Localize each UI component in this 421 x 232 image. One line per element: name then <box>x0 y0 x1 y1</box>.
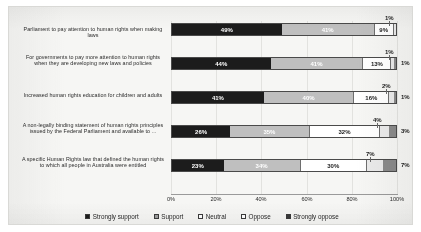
x-tick-label: 80% <box>346 196 357 202</box>
bar-segment-oppose <box>367 160 383 171</box>
value-callout-oppose: 1% <box>385 49 394 55</box>
chart-legend: Strongly support Support Neutral Oppose … <box>21 210 403 222</box>
legend-item-strongly-oppose[interactable]: Strongly oppose <box>286 213 339 220</box>
bar-segment-neutral: 16% <box>353 92 389 103</box>
legend-swatch-icon <box>154 214 159 219</box>
legend-item-oppose[interactable]: Oppose <box>241 213 271 220</box>
legend-label: Strongly oppose <box>293 213 339 220</box>
legend-label: Neutral <box>206 213 226 220</box>
value-callout-oppose: 1% <box>385 15 394 21</box>
stacked-bar: 26% 35% 32% <box>171 125 397 138</box>
bar-segment-strongly-support: 49% <box>172 24 282 35</box>
category-label: A non-legally binding statement of human… <box>21 122 165 135</box>
legend-label: Support <box>161 213 183 220</box>
bar-segment-support: 41% <box>282 24 374 35</box>
value-callout-strongly-oppose: 3% <box>401 128 410 134</box>
x-tick-label: 40% <box>255 196 266 202</box>
x-tick-label: 100% <box>390 196 404 202</box>
value-callout-oppose: 7% <box>366 151 375 157</box>
bar-segment-neutral: 30% <box>300 160 367 171</box>
category-label: Increased human rights education for chi… <box>21 92 165 98</box>
legend-label: Oppose <box>249 213 271 220</box>
legend-label: Strongly support <box>93 213 139 220</box>
chart-container: Parliament to pay attention to human rig… <box>8 6 413 225</box>
bar-segment-strongly-oppose <box>394 58 396 69</box>
legend-item-neutral[interactable]: Neutral <box>198 213 226 220</box>
x-tick-label: 60% <box>301 196 312 202</box>
leader-line <box>389 55 390 60</box>
x-axis-line <box>171 194 398 195</box>
bar-segment-strongly-oppose <box>394 92 396 103</box>
bar-segment-strongly-support: 26% <box>172 126 230 137</box>
bar-segment-support: 35% <box>230 126 308 137</box>
legend-swatch-icon <box>85 214 90 219</box>
leader-line <box>386 89 387 94</box>
legend-swatch-icon <box>241 214 246 219</box>
bar-segment-neutral: 32% <box>309 126 381 137</box>
bar-segment-neutral: 9% <box>374 24 394 35</box>
x-axis: 0% 20% 40% 60% 80% 100% <box>171 196 397 206</box>
value-callout-strongly-oppose: 1% <box>401 94 410 100</box>
x-tick-label: 0% <box>167 196 175 202</box>
category-label: A specific Human Rights law that defined… <box>21 156 165 169</box>
leader-line <box>377 123 378 128</box>
leader-line <box>370 157 371 162</box>
bar-segment-support: 34% <box>224 160 300 171</box>
bar-segment-oppose <box>380 126 389 137</box>
bar-segment-support: 40% <box>264 92 354 103</box>
bar-segment-support: 41% <box>271 58 363 69</box>
value-callout-strongly-oppose: 7% <box>401 162 410 168</box>
legend-swatch-icon <box>286 214 291 219</box>
stacked-bar: 49% 41% 9% <box>171 23 397 36</box>
value-callout-strongly-oppose: 1% <box>401 60 410 66</box>
x-tick-label: 20% <box>210 196 221 202</box>
value-callout-oppose: 2% <box>382 83 391 89</box>
gridline-100 <box>397 21 398 194</box>
bar-segment-oppose <box>394 24 396 35</box>
leader-line <box>389 21 390 26</box>
legend-item-strongly-support[interactable]: Strongly support <box>85 213 138 220</box>
stacked-bar: 23% 34% 30% <box>171 159 397 172</box>
bar-segment-strongly-support: 41% <box>172 92 264 103</box>
value-callout-oppose: 4% <box>373 117 382 123</box>
category-label: Parliament to pay attention to human rig… <box>21 26 165 39</box>
bar-segment-strongly-oppose <box>389 126 396 137</box>
bar-segment-neutral: 13% <box>362 58 391 69</box>
stacked-bar: 41% 40% 16% <box>171 91 397 104</box>
legend-swatch-icon <box>198 214 203 219</box>
stacked-bar: 44% 41% 13% <box>171 57 397 70</box>
category-label: For governments to pay more attention to… <box>21 54 165 67</box>
bar-segment-strongly-support: 44% <box>172 58 271 69</box>
bar-segment-strongly-support: 23% <box>172 160 224 171</box>
legend-item-support[interactable]: Support <box>154 213 184 220</box>
bar-segment-strongly-oppose <box>383 160 396 171</box>
